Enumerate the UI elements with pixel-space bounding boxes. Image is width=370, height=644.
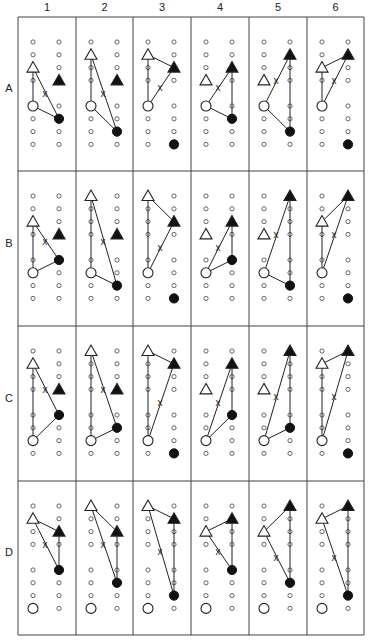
filled-triangle-icon (342, 49, 354, 60)
small-dot-icon (262, 375, 266, 379)
small-dot-icon (320, 568, 324, 572)
small-dot-icon (31, 40, 35, 44)
filled-triangle-icon (53, 526, 65, 537)
open-triangle-icon (142, 500, 154, 511)
cross-mark-icon: x (274, 552, 279, 563)
cell-D5: x (258, 500, 296, 613)
small-dot-icon (204, 117, 208, 121)
cell-B3: x (142, 190, 180, 303)
small-dot-icon (204, 504, 208, 508)
small-dot-icon (262, 142, 266, 146)
small-dot-icon (31, 504, 35, 508)
cross-mark-icon: x (332, 552, 337, 563)
column-header: 1 (44, 1, 50, 13)
small-dot-icon (89, 130, 93, 134)
open-circle-icon (86, 101, 96, 111)
cell-D4: x (200, 504, 238, 614)
small-dot-icon (57, 220, 61, 224)
small-dot-icon (89, 517, 93, 521)
open-circle-icon (201, 101, 211, 111)
small-dot-icon (31, 451, 35, 455)
filled-circle-icon (227, 114, 236, 123)
small-dot-icon (31, 194, 35, 198)
filled-circle-icon (285, 281, 294, 290)
small-dot-icon (288, 142, 292, 146)
small-dot-icon (204, 581, 208, 585)
small-dot-icon (262, 426, 266, 430)
small-dot-icon (146, 594, 150, 598)
open-circle-icon (317, 436, 327, 446)
open-triangle-icon (27, 358, 39, 369)
small-dot-icon (115, 220, 119, 224)
small-dot-icon (230, 439, 234, 443)
small-dot-icon (262, 413, 266, 417)
small-dot-icon (146, 296, 150, 300)
small-dot-icon (172, 606, 176, 610)
row-label: B (5, 237, 12, 249)
open-circle-icon (259, 436, 269, 446)
small-dot-icon (146, 581, 150, 585)
small-dot-icon (230, 606, 234, 610)
small-dot-icon (204, 349, 208, 353)
column-header: 6 (332, 1, 338, 13)
small-dot-icon (204, 426, 208, 430)
cross-mark-icon: x (216, 242, 221, 253)
small-dot-icon (230, 296, 234, 300)
small-dot-icon (320, 530, 324, 534)
cross-mark-icon: x (332, 75, 337, 86)
cross-mark-icon: x (274, 229, 279, 240)
open-circle-icon (201, 603, 211, 613)
filled-circle-icon (285, 127, 294, 136)
cross-mark-icon: x (274, 75, 279, 86)
open-circle-icon (28, 436, 38, 446)
small-dot-icon (172, 271, 176, 275)
small-dot-icon (89, 296, 93, 300)
small-dot-icon (204, 413, 208, 417)
small-dot-icon (57, 284, 61, 288)
cell-C1: x (27, 349, 65, 456)
small-dot-icon (204, 568, 208, 572)
small-dot-icon (57, 451, 61, 455)
filled-triangle-icon (284, 190, 296, 201)
small-dot-icon (346, 258, 350, 262)
small-dot-icon (320, 349, 324, 353)
small-dot-icon (346, 117, 350, 121)
cell-C4: x (200, 349, 238, 456)
small-dot-icon (204, 194, 208, 198)
small-dot-icon (57, 375, 61, 379)
small-dot-icon (346, 271, 350, 275)
filled-circle-icon (169, 140, 178, 149)
small-dot-icon (115, 207, 119, 211)
open-circle-icon (201, 436, 211, 446)
small-dot-icon (172, 349, 176, 353)
filled-circle-icon (169, 449, 178, 458)
small-dot-icon (288, 594, 292, 598)
small-dot-icon (146, 451, 150, 455)
small-dot-icon (230, 349, 234, 353)
open-circle-icon (143, 268, 153, 278)
small-dot-icon (115, 53, 119, 57)
small-dot-icon (31, 530, 35, 534)
small-dot-icon (172, 232, 176, 236)
small-dot-icon (320, 40, 324, 44)
filled-circle-icon (54, 255, 63, 264)
small-dot-icon (230, 594, 234, 598)
filled-circle-icon (112, 423, 121, 432)
column-header: 5 (275, 1, 281, 13)
open-triangle-icon (258, 228, 270, 239)
filled-triangle-icon (226, 216, 238, 227)
filled-triangle-icon (111, 74, 123, 85)
small-dot-icon (172, 117, 176, 121)
small-dot-icon (230, 284, 234, 288)
small-dot-icon (115, 413, 119, 417)
cross-mark-icon: x (216, 546, 221, 557)
small-dot-icon (320, 504, 324, 508)
small-dot-icon (346, 207, 350, 211)
small-dot-icon (204, 142, 208, 146)
open-triangle-icon (142, 345, 154, 356)
small-dot-icon (115, 504, 119, 508)
small-dot-icon (346, 78, 350, 82)
small-dot-icon (57, 271, 61, 275)
small-dot-icon (320, 296, 324, 300)
small-dot-icon (230, 207, 234, 211)
